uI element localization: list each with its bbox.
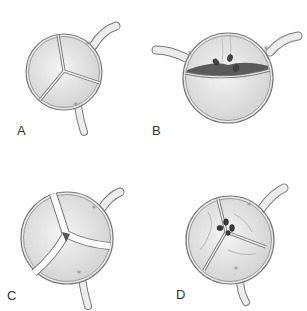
panel-label-c: C [7, 288, 16, 303]
panel-label-a: A [17, 123, 26, 138]
panel-d-valve [186, 188, 284, 302]
panel-label-d: D [176, 287, 185, 302]
panel-b-valve [156, 33, 298, 123]
panel-label-b: B [152, 123, 161, 138]
aortic-valve-figure [0, 0, 307, 311]
panel-a-valve [26, 26, 116, 132]
panel-c-valve [21, 192, 120, 306]
